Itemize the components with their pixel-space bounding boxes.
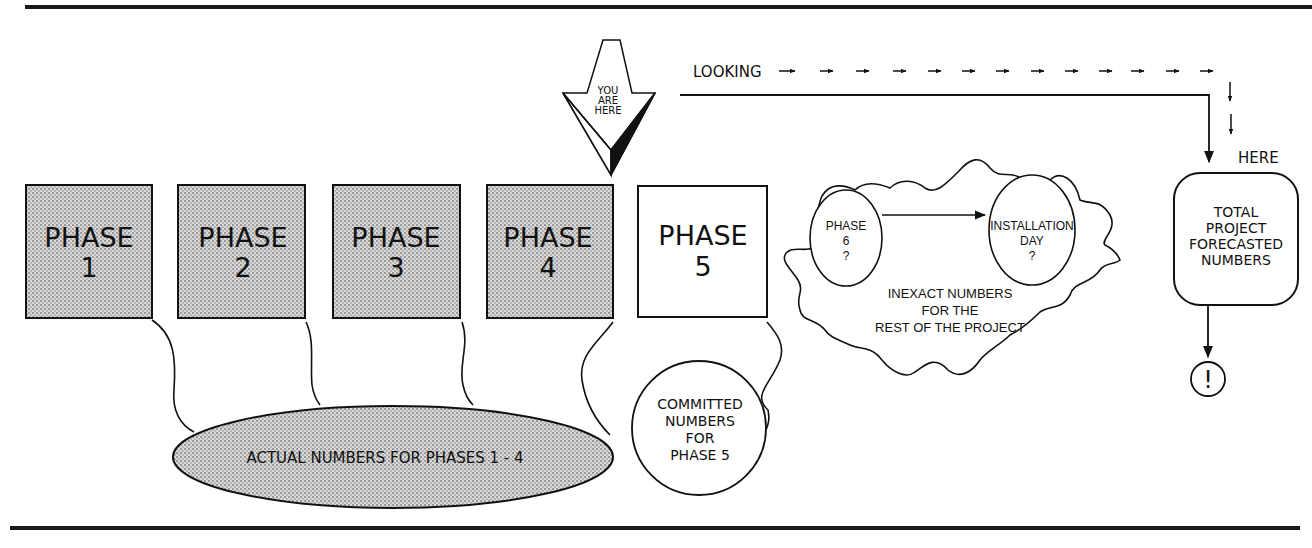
svg-text:PHASE 5: PHASE 5: [670, 447, 730, 463]
svg-text:COMMITTED: COMMITTED: [657, 396, 743, 412]
svg-text:1: 1: [80, 252, 97, 283]
exclamation-icon: !: [1191, 362, 1225, 396]
phase-box-4: PHASE 4: [487, 185, 613, 318]
inexact-caption-3: REST OF THE PROJECT: [875, 320, 1025, 335]
you-are-here-arrow-icon: YOU ARE HERE: [563, 40, 655, 175]
committed-numbers-circle: COMMITTED NUMBERS FOR PHASE 5: [632, 361, 766, 495]
you-are-here-line-3: HERE: [594, 105, 621, 116]
actual-numbers-ellipse: ACTUAL NUMBERS FOR PHASES 1 - 4: [173, 406, 613, 508]
looking-ahead-path: LOOKING HERE: [680, 63, 1279, 167]
svg-text:4: 4: [539, 252, 556, 283]
inexact-caption-2: FOR THE: [922, 303, 979, 318]
svg-text:?: ?: [1029, 249, 1036, 263]
svg-text:FOR: FOR: [686, 430, 715, 446]
inexact-numbers-cloud: PHASE 6 ? INSTALLATION DAY ? INEXACT NUM…: [784, 160, 1120, 375]
svg-text:FORECASTED: FORECASTED: [1189, 236, 1283, 252]
svg-text:DAY: DAY: [1020, 234, 1044, 248]
svg-text:!: !: [1203, 366, 1213, 394]
svg-text:PHASE: PHASE: [44, 222, 133, 253]
svg-text:5: 5: [694, 251, 711, 282]
svg-text:6: 6: [843, 234, 850, 248]
bottom-rule: [10, 526, 1300, 530]
svg-text:NUMBERS: NUMBERS: [665, 413, 735, 429]
svg-text:PHASE: PHASE: [198, 222, 287, 253]
looking-label: LOOKING: [693, 63, 762, 81]
phase-box-1: PHASE 1: [26, 185, 152, 318]
total-forecast-box: TOTAL PROJECT FORECASTED NUMBERS: [1174, 173, 1298, 305]
svg-text:PHASE: PHASE: [351, 222, 440, 253]
svg-text:PROJECT: PROJECT: [1206, 220, 1267, 236]
svg-text:TOTAL: TOTAL: [1213, 204, 1259, 220]
inexact-caption-1: INEXACT NUMBERS: [888, 286, 1013, 301]
top-rule: [25, 5, 1312, 9]
here-label: HERE: [1238, 149, 1279, 167]
phase-box-2: PHASE 2: [178, 185, 305, 318]
phase-box-3: PHASE 3: [333, 185, 460, 318]
phase-forecast-diagram: YOU ARE HERE LOOKING HERE PHASE 1 PHASE …: [0, 0, 1312, 548]
actual-numbers-label: ACTUAL NUMBERS FOR PHASES 1 - 4: [246, 449, 523, 467]
svg-text:PHASE: PHASE: [503, 222, 592, 253]
phase-6-label: PHASE: [826, 219, 867, 233]
svg-text:3: 3: [387, 252, 404, 283]
svg-text:2: 2: [234, 252, 251, 283]
svg-text:NUMBERS: NUMBERS: [1201, 252, 1271, 268]
installation-day-label: INSTALLATION: [990, 219, 1074, 233]
svg-text:?: ?: [843, 249, 850, 263]
svg-text:PHASE: PHASE: [658, 220, 747, 251]
phase-box-5: PHASE 5: [638, 186, 767, 317]
